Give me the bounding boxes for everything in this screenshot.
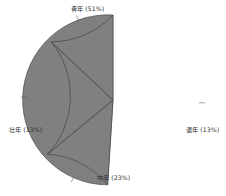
pie-label-zhuangnian: 壮年 (13%) bbox=[9, 127, 42, 133]
pie-label-tuinian: 退年 (13%) bbox=[186, 127, 219, 133]
pie-chart-figure: 青年 (51%) 退年 (13%) 中年 (23%) 壮年 (13%) bbox=[0, 0, 226, 196]
pie-label-qingnian: 青年 (51%) bbox=[71, 6, 104, 12]
pie-label-zhongnian: 中年 (23%) bbox=[97, 175, 130, 181]
pie-chart-canvas bbox=[0, 0, 226, 196]
pie-slices bbox=[23, 15, 113, 185]
